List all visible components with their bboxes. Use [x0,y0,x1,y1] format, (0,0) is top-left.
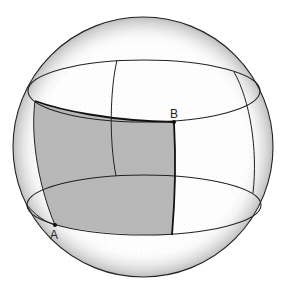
point-A [53,223,57,227]
label-B: B [170,107,178,121]
label-A: A [50,228,58,242]
sphere-diagram: A B [0,0,284,294]
